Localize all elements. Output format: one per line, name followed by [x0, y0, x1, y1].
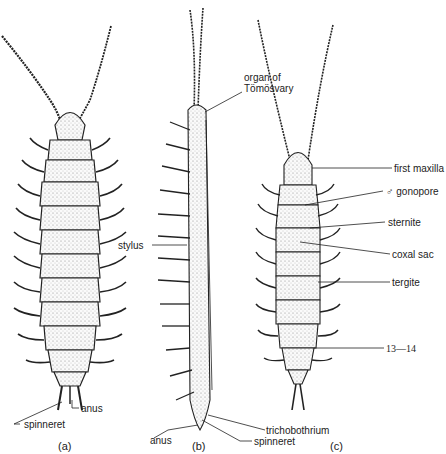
label-b-spinneret: spinneret [254, 436, 295, 447]
label-c-tergite: tergite [392, 277, 420, 288]
label-c-gonopore: ♂ gonopore [386, 186, 439, 197]
label-b-trichobothrium: trichobothrium [266, 425, 329, 436]
panel-a-organism [2, 26, 126, 424]
label-b-organ-of-tomosvary-2: Tömösvary [244, 83, 293, 94]
caption-a: (a) [58, 440, 71, 452]
label-b-stylus: stylus [118, 240, 144, 251]
label-b-organ-of-tomosvary-1: organ of [244, 72, 281, 83]
centipede-illustration [0, 0, 446, 454]
label-b-anus: anus [150, 435, 172, 446]
label-a-anus: anus [81, 403, 103, 414]
label-a-spinneret: spinneret [24, 419, 65, 430]
caption-c: (c) [330, 440, 343, 452]
label-c-sternite: sternite [388, 217, 421, 228]
label-c-first-maxilla: first maxilla [394, 163, 444, 174]
caption-b: (b) [192, 440, 205, 452]
label-c-segments-13-14: 13—14 [386, 343, 416, 354]
label-c-coxal-sac: coxal sac [392, 249, 434, 260]
